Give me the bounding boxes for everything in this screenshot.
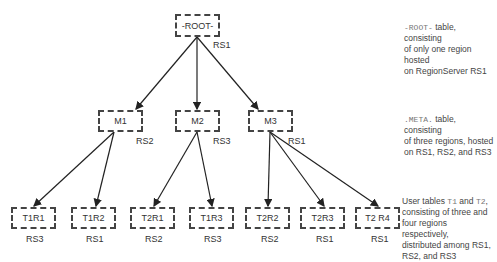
m1-server-label: RS2 [136,136,154,146]
m1-label: M1 [114,116,127,126]
root-region-box: -ROOT- [175,14,220,37]
meta-code: .META. [404,115,433,124]
t1r1-label: T1R1 [22,213,44,223]
t1r2-server-label: RS1 [86,234,104,244]
user-note: User tables T1 and T2, consisting of thr… [402,196,494,262]
user-note-line3: four regions respectively, [402,218,494,240]
user-region-box-t2r1: T2R1 [130,207,175,229]
user-note-mid: and [457,196,476,206]
user-region-box-t2r3: T2R3 [300,207,345,229]
user-note-line5: RS2, and RS3 [402,251,494,262]
t2r1-label: T2R1 [141,213,163,223]
t2r1-server-label: RS2 [145,234,163,244]
t2r2-label: T2R2 [256,213,278,223]
t1r1-server-label: RS3 [26,234,44,244]
root-note-line2: of only one region hosted [404,44,496,66]
t2r4-server-label: RS1 [371,234,389,244]
user-region-box-t2r4: T2 R4 [355,207,400,229]
user-note-pre: User tables [402,196,447,206]
t1r3-label: T1R3 [200,213,222,223]
t1r3-server-label: RS3 [204,234,222,244]
t1r2-label: T1R2 [82,213,104,223]
root-note: -ROOT- table, consisting of only one reg… [404,22,496,77]
t1-code: T1 [447,197,457,206]
meta-note-line2: of three regions, hosted [404,136,496,147]
meta-region-box-m1: M1 [98,110,143,132]
user-region-box-t2r2: T2R2 [245,207,290,229]
root-server-label: RS1 [213,40,231,50]
root-label: -ROOT- [182,21,214,31]
user-note-line2: consisting of three and [402,207,494,218]
root-note-line3: on RegionServer RS1 [404,66,496,77]
m2-label: M2 [191,116,204,126]
t2r2-server-label: RS2 [261,234,279,244]
t2r3-label: T2R3 [311,213,333,223]
user-region-box-t1r2: T1R2 [71,207,116,229]
t2r4-label: T2 R4 [365,213,390,223]
m3-label: M3 [264,116,277,126]
user-note-post: , [485,196,487,206]
meta-note-line3: on RS1, RS2, and RS3 [404,147,496,158]
m3-server-label: RS1 [288,136,306,146]
meta-region-box-m3: M3 [248,110,293,132]
user-note-line4: distributed among RS1, [402,240,494,251]
meta-region-box-m2: M2 [175,110,220,132]
user-region-box-t1r1: T1R1 [11,207,56,229]
root-code: -ROOT- [404,23,433,32]
user-region-box-t1r3: T1R3 [189,207,234,229]
meta-note: .META. table, consisting of three region… [404,114,496,158]
t2r3-server-label: RS1 [316,234,334,244]
m2-server-label: RS3 [213,136,231,146]
